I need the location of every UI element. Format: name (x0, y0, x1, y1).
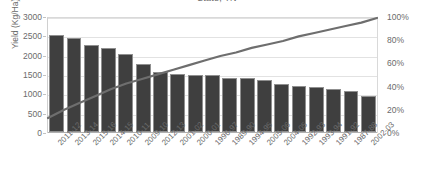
x-axis-slot: 1993-94 (308, 134, 325, 182)
y-axis-left-tick: 3000 (23, 12, 42, 22)
x-axis-slot: 2004-05 (273, 134, 290, 182)
y-axis-left-tick: 0 (37, 128, 42, 138)
x-axis-labels: 2011-122013-142015-162014-152010-112009-… (47, 134, 378, 182)
x-axis-slot: 1992-93 (291, 134, 308, 182)
y-axis-left-title: Yield (Kg/Ha) (10, 0, 20, 49)
x-axis-slot: 2005-06 (256, 134, 273, 182)
cumulative-line-series (48, 18, 377, 133)
y-axis-right-tick: 80% (387, 35, 404, 45)
plot-area (47, 17, 378, 133)
x-axis-slot: 2010-11 (117, 134, 134, 182)
x-axis-slot: 2009-10 (134, 134, 151, 182)
y-axis-left-tickmark (43, 114, 46, 115)
y-axis-right-tick: 20% (387, 105, 404, 115)
x-axis-slot: 2015-16 (82, 134, 99, 182)
y-axis-left-tickmark (43, 56, 46, 57)
y-axis-left-tick: 1000 (23, 89, 42, 99)
cumulative-line (48, 18, 377, 118)
y-axis-left-tick: 2000 (23, 51, 42, 61)
x-axis-slot: 1991-92 (326, 134, 343, 182)
y-axis-left-tickmark (43, 94, 46, 95)
x-axis-slot: 2000-01 (186, 134, 203, 182)
y-axis-right-tick: 40% (387, 82, 404, 92)
x-axis-slot: 2014-15 (99, 134, 116, 182)
x-axis-slot: 2013-14 (64, 134, 81, 182)
chart-title: State; TN (0, 0, 434, 3)
y-axis-left-tickmark (43, 17, 46, 18)
y-axis-left-tickmark (43, 75, 46, 76)
y-axis-left-tickmark (43, 133, 46, 134)
y-axis-right-tick: 60% (387, 58, 404, 68)
y-axis-left-tick: 500 (28, 109, 42, 119)
x-axis-slot: 2012-13 (152, 134, 169, 182)
y-axis-left-tick: 1500 (23, 70, 42, 80)
x-axis-slot: 2002-03 (361, 134, 378, 182)
pareto-chart: State; TN Yield (Kg/Ha) 0500100015002000… (0, 0, 434, 182)
y-axis-right-tick: 100% (387, 12, 409, 22)
x-axis-slot: 1987-88 (343, 134, 360, 182)
x-axis-slot: 2011-12 (47, 134, 64, 182)
y-axis-left-tick: 2500 (23, 31, 42, 41)
y-axis-left-tickmark (43, 36, 46, 37)
x-axis-slot: 1994-95 (239, 134, 256, 182)
y-axis-left: Yield (Kg/Ha) 050010001500200025003000 (16, 11, 46, 139)
x-axis-slot: 2001-02 (169, 134, 186, 182)
x-axis-slot: 1996-97 (204, 134, 221, 182)
x-axis-slot: 1989-90 (221, 134, 238, 182)
